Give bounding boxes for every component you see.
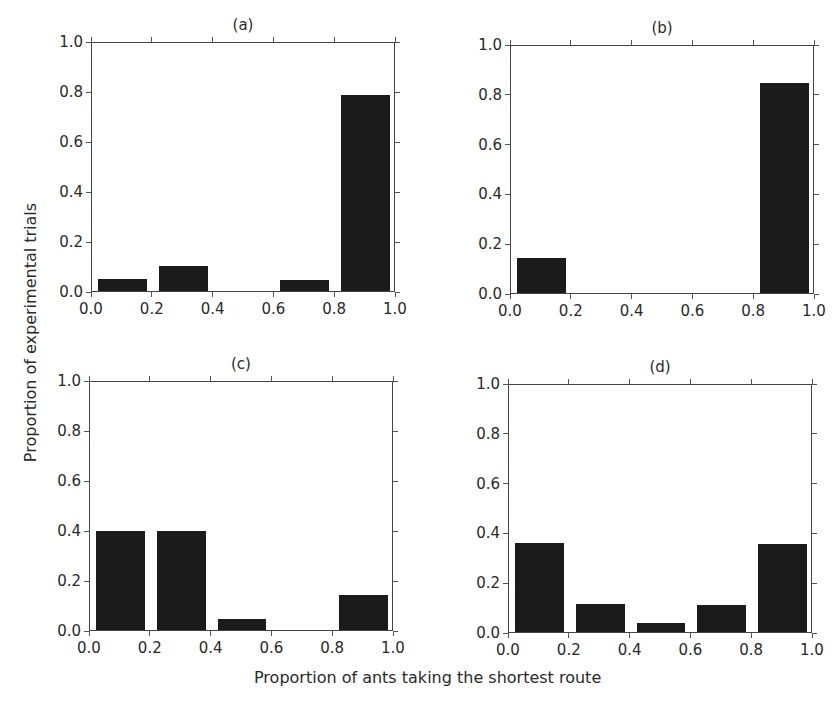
y-tick-label: 0.6 xyxy=(460,476,500,492)
x-tick-label: 1.0 xyxy=(375,301,415,317)
x-tick xyxy=(568,379,569,384)
x-tick-label: 0.0 xyxy=(69,640,109,656)
y-tick-label: 0.0 xyxy=(43,284,83,300)
x-tick-label: 1.0 xyxy=(794,303,834,319)
y-tick-label: 0.4 xyxy=(41,523,81,539)
x-tick xyxy=(753,294,754,299)
x-tick xyxy=(692,294,693,299)
x-tick xyxy=(271,376,272,381)
y-tick xyxy=(395,292,400,293)
x-tick xyxy=(570,294,571,299)
y-tick xyxy=(393,381,398,382)
y-tick-label: 0.6 xyxy=(43,134,83,150)
histogram-bar xyxy=(576,604,625,632)
x-tick-label: 0.0 xyxy=(488,642,528,658)
x-tick xyxy=(89,376,90,381)
plot-area xyxy=(510,45,814,294)
histogram-bar xyxy=(96,531,145,630)
y-tick-label: 0.8 xyxy=(43,84,83,100)
y-tick-label: 1.0 xyxy=(41,373,81,389)
y-tick-label: 0.6 xyxy=(41,473,81,489)
x-tick xyxy=(273,37,274,42)
y-tick xyxy=(814,144,819,145)
y-tick-label: 0.6 xyxy=(462,137,502,153)
x-tick xyxy=(393,631,394,636)
y-tick xyxy=(503,583,508,584)
x-tick xyxy=(631,294,632,299)
y-tick-label: 1.0 xyxy=(462,37,502,53)
x-tick xyxy=(151,37,152,42)
histogram-bar xyxy=(758,544,807,632)
x-axis-label: Proportion of ants taking the shortest r… xyxy=(254,668,601,687)
x-tick-label: 0.2 xyxy=(132,301,172,317)
y-tick-label: 0.4 xyxy=(460,525,500,541)
x-tick xyxy=(751,379,752,384)
x-tick xyxy=(510,40,511,45)
x-tick xyxy=(334,292,335,297)
x-tick-label: 0.4 xyxy=(610,642,650,658)
x-tick xyxy=(508,379,509,384)
panel-title: (a) xyxy=(213,16,273,34)
y-tick xyxy=(814,294,819,295)
y-tick xyxy=(84,431,89,432)
plot-area xyxy=(89,381,393,631)
x-tick xyxy=(212,292,213,297)
histogram-bar xyxy=(517,258,566,293)
y-tick-label: 0.2 xyxy=(43,234,83,250)
y-tick xyxy=(814,45,819,46)
x-tick xyxy=(395,292,396,297)
x-tick xyxy=(332,631,333,636)
y-tick xyxy=(505,244,510,245)
x-tick-label: 0.8 xyxy=(733,303,773,319)
histogram-bar xyxy=(760,83,809,293)
x-tick xyxy=(568,633,569,638)
histogram-bar xyxy=(159,266,208,291)
panel-title: (c) xyxy=(211,355,271,373)
y-tick xyxy=(812,633,817,634)
y-tick-label: 1.0 xyxy=(43,34,83,50)
x-tick-label: 0.4 xyxy=(612,303,652,319)
y-tick-label: 0.2 xyxy=(462,236,502,252)
y-tick xyxy=(395,242,400,243)
x-tick xyxy=(393,376,394,381)
y-tick xyxy=(395,192,400,193)
y-tick xyxy=(812,533,817,534)
y-tick xyxy=(86,242,91,243)
x-tick xyxy=(210,376,211,381)
y-tick xyxy=(395,142,400,143)
x-tick xyxy=(753,40,754,45)
x-tick-label: 0.2 xyxy=(551,303,591,319)
histogram-bar xyxy=(341,95,390,291)
x-tick xyxy=(149,631,150,636)
x-tick xyxy=(91,292,92,297)
x-tick xyxy=(690,379,691,384)
histogram-bar xyxy=(218,619,267,630)
y-tick xyxy=(503,533,508,534)
x-tick-label: 0.6 xyxy=(672,303,712,319)
x-tick-label: 0.8 xyxy=(731,642,771,658)
x-tick xyxy=(212,37,213,42)
x-tick xyxy=(631,40,632,45)
y-tick xyxy=(812,384,817,385)
x-tick xyxy=(814,294,815,299)
histogram-bar xyxy=(515,543,564,632)
panel-title: (d) xyxy=(630,358,690,376)
y-tick xyxy=(86,142,91,143)
y-tick xyxy=(84,581,89,582)
y-tick-label: 0.0 xyxy=(462,286,502,302)
x-tick xyxy=(510,294,511,299)
x-tick xyxy=(395,37,396,42)
x-tick-label: 0.2 xyxy=(130,640,170,656)
plot-area xyxy=(91,42,395,292)
y-tick xyxy=(395,42,400,43)
x-tick-label: 0.4 xyxy=(191,640,231,656)
y-tick xyxy=(812,583,817,584)
x-tick xyxy=(273,292,274,297)
y-tick-label: 0.8 xyxy=(460,426,500,442)
x-tick xyxy=(692,40,693,45)
x-tick xyxy=(508,633,509,638)
x-tick-label: 0.8 xyxy=(314,301,354,317)
y-tick xyxy=(503,433,508,434)
y-tick-label: 0.0 xyxy=(460,625,500,641)
x-tick xyxy=(334,37,335,42)
